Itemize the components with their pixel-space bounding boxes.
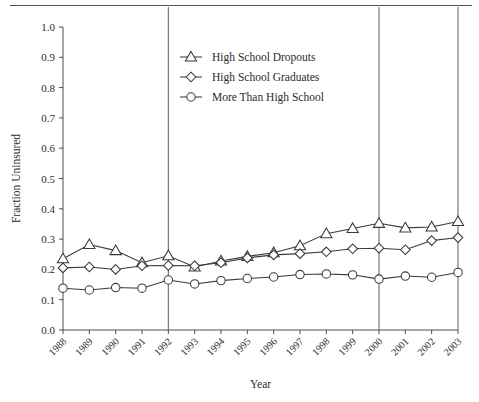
data-point-diamond [216, 258, 226, 268]
data-point-circle [401, 272, 409, 280]
series-0 [57, 216, 463, 271]
data-point-diamond [427, 236, 437, 246]
x-tick-label: 1999 [336, 336, 358, 358]
data-point-triangle [452, 216, 463, 226]
y-tick-label: 0.3 [41, 233, 55, 245]
legend-marker-diamond [186, 72, 196, 82]
y-tick-label: 0.6 [41, 142, 55, 154]
x-tick-label: 1998 [310, 336, 332, 358]
legend-marker-circle [187, 93, 195, 101]
legend-label-2: More Than High School [212, 91, 324, 104]
y-tick-label: 0.2 [41, 263, 55, 275]
y-tick-label: 0.1 [41, 294, 55, 306]
data-point-triangle [163, 250, 174, 260]
data-point-circle [217, 276, 225, 284]
x-tick-label: 2002 [415, 336, 437, 358]
data-point-circle [454, 268, 462, 276]
x-tick-label: 1997 [283, 336, 305, 358]
line-chart: 0.00.10.20.30.40.50.60.70.80.91.01988198… [0, 0, 479, 402]
x-tick-label: 1988 [46, 336, 68, 358]
data-point-diamond [243, 253, 253, 263]
data-point-diamond [348, 244, 358, 254]
x-tick-label: 1991 [125, 336, 147, 358]
data-point-circle [269, 273, 277, 281]
y-tick-label: 0.4 [41, 203, 55, 215]
data-point-diamond [85, 262, 95, 272]
x-tick-label: 1993 [178, 336, 200, 358]
y-tick-label: 0.7 [41, 112, 55, 124]
data-point-diamond [453, 233, 463, 243]
data-point-triangle [57, 253, 68, 263]
data-point-circle [243, 274, 251, 282]
y-tick-label: 0.9 [41, 51, 55, 63]
data-point-circle [348, 271, 356, 279]
x-tick-label: 2003 [441, 336, 463, 358]
x-tick-label: 1995 [231, 336, 253, 358]
data-point-diamond [322, 247, 332, 257]
y-axis-title: Fraction Uninsured [10, 134, 22, 223]
data-point-circle [164, 276, 172, 284]
x-tick-label: 1996 [257, 336, 279, 358]
x-tick-label: 2001 [389, 336, 411, 358]
data-point-circle [296, 270, 304, 278]
x-tick-label: 1990 [99, 336, 121, 358]
figure-container: 0.00.10.20.30.40.50.60.70.80.91.01988198… [0, 0, 479, 402]
legend-label-0: High School Dropouts [212, 51, 316, 64]
x-tick-label: 2000 [362, 336, 384, 358]
x-tick-label: 1994 [204, 336, 226, 358]
legend-label-1: High School Graduates [212, 71, 320, 84]
y-tick-label: 0.5 [41, 173, 55, 185]
data-point-diamond [401, 245, 411, 255]
data-point-diamond [111, 265, 121, 275]
data-point-diamond [164, 261, 174, 271]
data-point-circle [427, 273, 435, 281]
y-tick-label: 1.0 [41, 21, 55, 33]
legend: High School DropoutsHigh School Graduate… [180, 51, 324, 104]
legend-marker-triangle [185, 51, 196, 61]
data-point-triangle [373, 218, 384, 228]
y-tick-label: 0.8 [41, 82, 55, 94]
data-point-diamond [58, 263, 68, 273]
data-point-diamond [374, 243, 384, 253]
series-line-2 [63, 272, 458, 290]
data-point-circle [111, 283, 119, 291]
data-point-circle [138, 284, 146, 292]
x-tick-label: 1989 [73, 336, 95, 358]
data-point-circle [375, 275, 383, 283]
data-point-circle [322, 270, 330, 278]
x-tick-label: 1992 [152, 336, 174, 358]
y-tick-label: 0.0 [41, 324, 55, 336]
data-point-triangle [84, 239, 95, 249]
series-2 [59, 268, 462, 294]
data-point-circle [85, 286, 93, 294]
x-axis-title: Year [250, 378, 271, 390]
data-point-circle [190, 280, 198, 288]
series-line-0 [63, 222, 458, 267]
data-point-circle [59, 284, 67, 292]
